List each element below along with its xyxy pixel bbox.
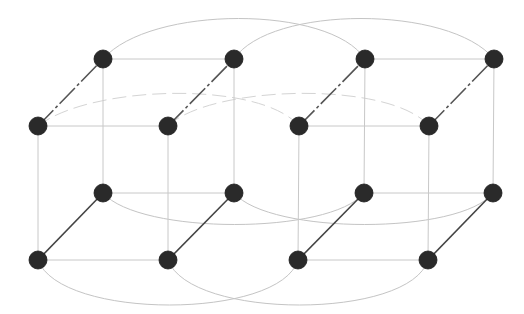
node-ft2	[290, 117, 308, 135]
depth-link-ft0-bt0	[38, 59, 103, 126]
node-bb2	[355, 184, 373, 202]
link-bt2-bb2	[364, 59, 365, 193]
depth-links	[38, 59, 494, 260]
depth-link-fb1-bb1	[168, 193, 234, 260]
node-fb3	[419, 251, 437, 269]
node-bb1	[225, 184, 243, 202]
depth-link-fb3-bb3	[428, 193, 493, 260]
depth-link-fb0-bb0	[38, 193, 103, 260]
depth-link-ft1-bt1	[168, 59, 234, 126]
link-ft3-fb3	[428, 126, 429, 260]
node-ft0	[29, 117, 47, 135]
depth-link-ft3-bt3	[429, 59, 494, 126]
link-ft2-fb2	[298, 126, 299, 260]
node-fb2	[289, 251, 307, 269]
nodes	[29, 50, 503, 269]
depth-link-fb2-bb2	[298, 193, 364, 260]
link-bt3-bb3	[493, 59, 494, 193]
node-fb1	[159, 251, 177, 269]
node-bb3	[484, 184, 502, 202]
node-ft1	[159, 117, 177, 135]
node-bt3	[485, 50, 503, 68]
network-diagram	[0, 0, 524, 314]
node-bt1	[225, 50, 243, 68]
node-bb0	[94, 184, 112, 202]
node-bt2	[356, 50, 374, 68]
depth-link-ft2-bt2	[299, 59, 365, 126]
node-ft3	[420, 117, 438, 135]
node-bt0	[94, 50, 112, 68]
node-fb0	[29, 251, 47, 269]
grid-links	[38, 59, 494, 260]
